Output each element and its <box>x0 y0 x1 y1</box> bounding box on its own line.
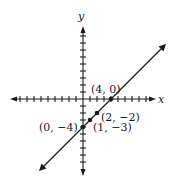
y-axis-up-arrow-icon <box>81 26 86 33</box>
x-axis-label: x <box>158 93 165 106</box>
coordinate-plane: x y (4 <box>0 0 175 180</box>
y-axis <box>80 30 86 172</box>
x-axis-left-arrow-icon <box>10 97 17 102</box>
label-0-neg4: (0, −4) <box>39 121 78 134</box>
y-axis-down-arrow-icon <box>81 169 86 176</box>
line-y-equals-x-minus-4 <box>43 48 162 167</box>
label-4-0: (4, 0) <box>91 83 121 96</box>
y-axis-label: y <box>77 10 85 23</box>
point-4-0 <box>109 97 114 102</box>
label-1-neg3: (1, −3) <box>93 121 132 134</box>
x-axis-right-arrow-icon <box>149 97 156 102</box>
point-2-neg2 <box>95 111 100 116</box>
point-0-neg4 <box>81 125 86 130</box>
point-1-neg3 <box>88 118 93 123</box>
